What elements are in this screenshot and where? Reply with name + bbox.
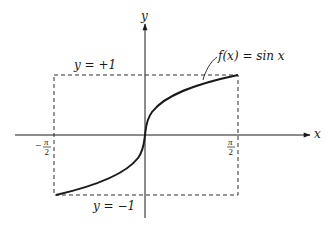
x-min-denominator: 2 (45, 147, 50, 157)
sine-function-diagram: y x y = +1 y = −1 f(x) = sin x − π 2 π 2 (0, 0, 331, 233)
function-label-leader (203, 57, 217, 80)
lower-bound-label: y = −1 (92, 199, 135, 213)
function-label: f(x) = sin x (217, 49, 285, 63)
x-min-sign: − (35, 139, 41, 151)
upper-bound-label: y = +1 (73, 58, 116, 72)
x-axis-label: x (314, 127, 321, 141)
y-axis-label: y (140, 9, 148, 23)
x-max-numerator: π (228, 137, 233, 147)
x-max-denominator: 2 (229, 147, 234, 157)
x-min-numerator: π (44, 137, 49, 147)
